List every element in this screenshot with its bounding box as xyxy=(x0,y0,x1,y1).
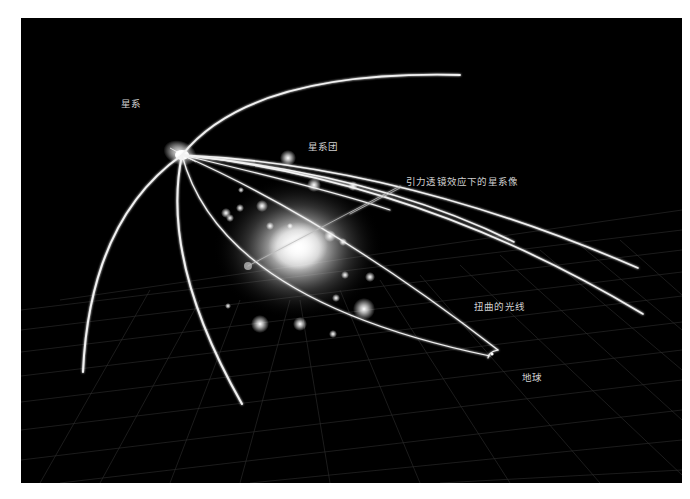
earth-marker xyxy=(490,352,493,355)
label-lensed-images: 引力透镜效应下的星系像 xyxy=(406,174,518,188)
ray-left-arc xyxy=(83,155,182,372)
gravitational-lensing-diagram: 星系 星系团 引力透镜效应下的星系像 扭曲的光线 地球 xyxy=(21,18,682,483)
label-distorted-light: 扭曲的光线 xyxy=(474,299,525,313)
label-galaxy-cluster: 星系团 xyxy=(308,139,339,153)
label-galaxy: 星系 xyxy=(121,96,141,110)
label-earth: 地球 xyxy=(522,370,542,384)
diagram-canvas xyxy=(21,18,682,483)
